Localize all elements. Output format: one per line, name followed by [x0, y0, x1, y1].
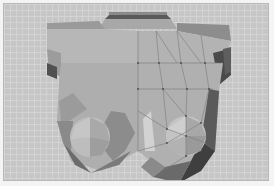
- left-arm-stub: [47, 49, 61, 79]
- viewport-frame: [0, 0, 274, 186]
- torso-mesh[interactable]: [3, 3, 269, 181]
- neck-ring: [99, 12, 177, 29]
- 3d-viewport[interactable]: [3, 3, 269, 181]
